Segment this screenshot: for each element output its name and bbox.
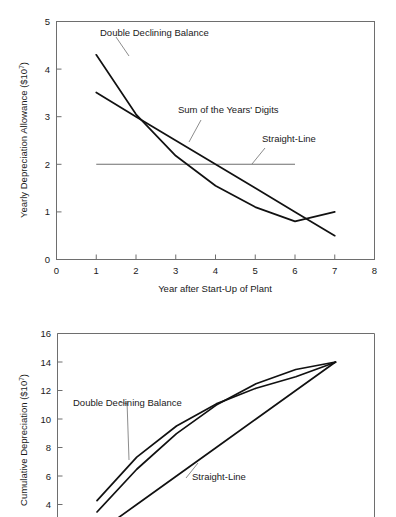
y-axis-tick-labels: 16 14 12 10 8 6 4 [40,328,51,510]
x-tick-label: 7 [332,265,337,276]
y-tick-label: 12 [40,385,51,396]
x-tick-label: 1 [94,265,99,276]
y-tick-label: 8 [46,442,51,453]
plot-frame [58,334,375,517]
y-tick-label: 1 [45,206,50,217]
x-tick-label: 2 [133,265,138,276]
x-tick-label: 3 [173,265,178,276]
svg-text:Yearly Depreciation Allowance: Yearly Depreciation Allowance ($107) [18,62,29,218]
y-tick-label: 6 [46,471,51,482]
x-tick-label: 0 [54,265,59,276]
y-tick-label: 0 [45,254,50,265]
x-axis-ticks [57,255,375,260]
y-axis-title: Cumulative Depreciation ($107) [18,374,29,506]
y-axis-title: Yearly Depreciation Allowance ($107) [18,62,29,218]
y-tick-label: 16 [40,328,51,339]
y-tick-label: 5 [45,16,50,27]
y-axis-title-suffix: ) [18,62,29,65]
x-tick-label: 4 [213,265,218,276]
y-axis-tick-labels: 0 1 2 3 4 5 [45,16,50,265]
x-tick-label: 5 [253,265,258,276]
leader-double-declining-balance [127,401,129,460]
y-axis-title-main: Cumulative Depreciation ($10 [18,381,29,506]
yearly-depreciation-chart: 0 1 2 3 4 5 0 1 [0,0,396,300]
x-tick-label: 8 [372,265,377,276]
y-axis-ticks [57,22,62,260]
annotation-sum-of-years-digits: Sum of the Years' Digits [178,104,279,115]
annotation-straight-line: Straight-Line [192,471,246,482]
annotation-double-declining-balance: Double Declining Balance [73,397,182,408]
plot-frame [57,22,375,260]
y-tick-label: 10 [40,414,51,425]
series-straight-line [97,362,336,517]
x-axis-tick-labels: 0 1 2 3 4 5 6 7 8 [54,265,377,276]
leader-double-declining-balance [116,37,129,56]
y-tick-label: 3 [45,111,50,122]
leader-straight-line [252,148,265,164]
series-sum-of-years-digits [97,362,336,512]
y-axis-ticks [58,334,63,505]
y-tick-label: 14 [40,357,51,368]
y-tick-label: 4 [45,64,50,75]
y-axis-title-suffix: ) [18,374,29,377]
cumulative-chart-svg: 16 14 12 10 8 6 4 Cumulative Depreciatio… [0,300,396,517]
chart-page: . 0 1 2 3 4 5 [0,0,396,517]
y-tick-label: 2 [45,159,50,170]
leader-sum-of-years-digits [189,120,201,142]
x-axis-title: Year after Start-Up of Plant [158,283,272,294]
svg-text:Cumulative Depreciation ($107): Cumulative Depreciation ($107) [18,374,29,506]
y-axis-title-main: Yearly Depreciation Allowance ($10 [18,69,29,218]
yearly-chart-svg: 0 1 2 3 4 5 0 1 [0,0,396,300]
x-tick-label: 6 [292,265,297,276]
annotation-straight-line: Straight-Line [262,133,316,144]
y-tick-label: 4 [46,499,51,510]
annotation-double-declining-balance: Double Declining Balance [100,27,209,38]
cumulative-depreciation-chart: 16 14 12 10 8 6 4 Cumulative Depreciatio… [0,300,396,517]
